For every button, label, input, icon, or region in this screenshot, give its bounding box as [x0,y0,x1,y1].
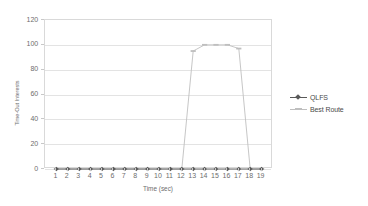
x-tick-mark [112,168,113,171]
x-tick-mark [101,168,102,171]
data-point-marker [191,50,196,52]
y-tick-mark [41,168,44,169]
x-tick-mark [135,168,136,171]
x-tick-label: 19 [253,172,269,179]
plot-area [44,19,272,168]
x-tick-mark [238,168,239,171]
data-point-marker [213,44,218,46]
data-point-marker [225,44,230,46]
x-axis-title: Time (sec) [44,185,272,192]
legend-item-best-route[interactable]: Best Route [290,103,364,115]
x-tick-mark [226,168,227,171]
data-point-marker [236,48,241,50]
chart-legend: QLFSBest Route [290,91,364,115]
x-tick-mark [181,168,182,171]
x-tick-mark [215,168,216,171]
series-best-route [54,44,264,170]
y-tick-label: 100 [0,40,38,47]
series-layer [45,20,273,169]
legend-label: QLFS [310,94,328,101]
y-tick-label: 60 [0,90,38,97]
x-tick-mark [169,168,170,171]
series-qlfs [54,167,264,172]
x-tick-mark [249,168,250,171]
data-point-marker [202,44,207,46]
x-tick-mark [78,168,79,171]
legend-swatch-icon [290,93,307,102]
legend-swatch-icon [290,105,307,114]
legend-item-qlfs[interactable]: QLFS [290,91,364,103]
x-tick-mark [147,168,148,171]
x-tick-mark [192,168,193,171]
x-tick-mark [55,168,56,171]
x-tick-mark [90,168,91,171]
y-tick-label: 20 [0,140,38,147]
y-tick-label: 40 [0,115,38,122]
y-tick-label: 120 [0,16,38,23]
y-tick-label: 80 [0,65,38,72]
x-tick-mark [124,168,125,171]
x-tick-mark [67,168,68,171]
series-line [56,45,261,169]
x-tick-mark [158,168,159,171]
x-tick-mark [261,168,262,171]
legend-label: Best Route [310,106,344,113]
y-tick-label: 0 [0,165,38,172]
line-chart: Time-Out Interests 020406080100120 12345… [0,0,368,206]
x-tick-mark [204,168,205,171]
